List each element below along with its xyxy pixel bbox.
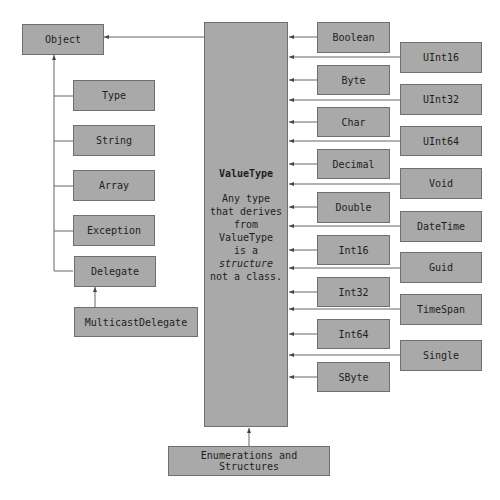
node-array: Array	[73, 170, 155, 201]
node-label: UInt64	[423, 136, 459, 147]
node-label: Void	[429, 178, 453, 189]
node-delegate: Delegate	[74, 256, 156, 287]
desc-line: ValueType	[210, 231, 282, 244]
node-label: TimeSpan	[417, 304, 465, 315]
node-timespan: TimeSpan	[400, 294, 482, 325]
node-label: Guid	[429, 262, 453, 273]
node-type: Type	[73, 80, 155, 111]
node-int16: Int16	[317, 235, 390, 265]
node-label: Decimal	[332, 159, 374, 170]
node-char: Char	[317, 107, 390, 137]
node-uint32: UInt32	[400, 84, 482, 115]
node-uint64: UInt64	[400, 126, 482, 156]
node-double: Double	[317, 192, 390, 223]
node-label: Double	[335, 202, 371, 213]
node-label: SByte	[338, 372, 368, 383]
node-label: Byte	[341, 75, 365, 86]
node-string: String	[73, 125, 155, 156]
desc-line: is a	[210, 244, 282, 257]
node-enumerations-structures: Enumerations and Structures	[168, 446, 330, 476]
node-boolean: Boolean	[317, 22, 390, 53]
desc-line: from	[210, 218, 282, 231]
node-label: MulticastDelegate	[85, 317, 187, 328]
node-byte: Byte	[317, 65, 390, 95]
node-label: String	[96, 135, 132, 146]
node-datetime: DateTime	[400, 211, 482, 242]
node-label: DateTime	[417, 221, 465, 232]
desc-line-emphasis: structure	[219, 258, 273, 269]
desc-line: that derives	[210, 205, 282, 218]
node-multicast-delegate: MulticastDelegate	[74, 307, 198, 337]
node-void: Void	[400, 168, 482, 199]
node-single: Single	[400, 340, 482, 371]
node-value-type: ValueType Any type that derives from Val…	[204, 22, 288, 427]
desc-line: Any type	[210, 192, 282, 205]
node-label: Type	[102, 90, 126, 101]
node-int32: Int32	[317, 277, 390, 307]
node-label: Single	[423, 350, 459, 361]
node-label: Int64	[338, 329, 368, 340]
node-uint16: UInt16	[400, 42, 482, 73]
node-int64: Int64	[317, 319, 390, 349]
node-label: Char	[341, 117, 365, 128]
desc-line: not a class.	[210, 270, 282, 283]
node-label: Enumerations and Structures	[169, 450, 329, 472]
node-label: Object	[45, 34, 81, 45]
node-label: Int32	[338, 287, 368, 298]
node-exception: Exception	[73, 215, 155, 246]
node-label: Delegate	[91, 266, 139, 277]
node-label: UInt16	[423, 52, 459, 63]
value-type-description: Any type that derives from ValueType is …	[210, 192, 282, 283]
node-label: Int16	[338, 245, 368, 256]
node-label: Exception	[87, 225, 141, 236]
node-guid: Guid	[400, 252, 482, 283]
node-label: Array	[99, 180, 129, 191]
node-label: Boolean	[332, 32, 374, 43]
node-sbyte: SByte	[317, 362, 390, 392]
node-decimal: Decimal	[317, 149, 390, 179]
value-type-title: ValueType	[219, 167, 273, 180]
node-object: Object	[22, 24, 104, 55]
node-label: UInt32	[423, 94, 459, 105]
